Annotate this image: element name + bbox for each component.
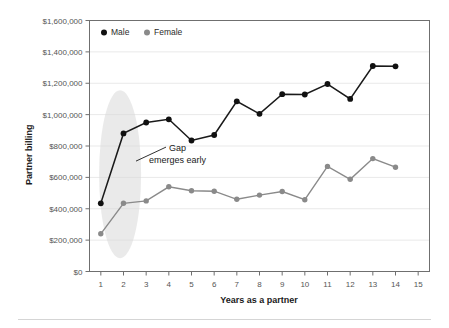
data-point-female-year-1 [98,231,103,236]
data-point-female-year-4 [166,184,171,189]
y-tick-label: $0 [74,268,83,277]
y-axis-title: Partner billing [24,124,34,185]
legend-marker-male [101,30,107,36]
data-point-male-year-5 [189,138,195,144]
y-tick-label: $800,000 [49,142,83,151]
data-point-male-year-4 [166,116,172,122]
x-tick-label: 2 [121,280,126,289]
x-tick-label: 8 [257,280,262,289]
data-point-male-year-1 [98,200,104,206]
data-point-female-year-7 [234,197,239,202]
partner-billing-line-chart: $0$200,000$400,000$600,000$800,000$1,000… [0,0,449,328]
legend-marker-female [144,30,150,36]
annotation-text-line2: emerges early [149,155,207,165]
data-point-male-year-7 [234,98,240,104]
x-tick-label: 11 [323,280,332,289]
annotation-text-line1: Gap [169,143,186,153]
data-point-male-year-6 [211,132,217,138]
y-tick-label: $200,000 [49,236,83,245]
y-tick-label: $1,400,000 [42,48,83,57]
data-point-male-year-2 [121,131,127,137]
data-point-female-year-14 [393,165,398,170]
y-tick-label: $1,000,000 [42,111,83,120]
chart-figure: $0$200,000$400,000$600,000$800,000$1,000… [0,0,449,328]
data-point-male-year-10 [302,92,308,98]
x-tick-label: 10 [300,280,309,289]
x-axis-title: Years as a partner [220,295,298,305]
x-tick-label: 7 [235,280,240,289]
data-point-male-year-12 [347,96,353,102]
data-point-female-year-2 [121,201,126,206]
highlight-ellipse-layer [99,90,141,258]
x-tick-label: 15 [414,280,423,289]
x-tick-label: 12 [346,280,355,289]
x-tick-label: 6 [212,280,217,289]
x-tick-label: 3 [144,280,149,289]
data-point-male-year-3 [143,120,149,126]
x-tick-label: 4 [167,280,172,289]
data-point-male-year-14 [393,63,399,69]
y-tick-label: $1,600,000 [42,17,83,26]
data-point-female-year-8 [257,192,262,197]
x-tick-label: 13 [368,280,377,289]
y-tick-label: $1,200,000 [42,79,83,88]
data-point-male-year-8 [257,111,263,117]
data-point-male-year-13 [370,63,376,69]
data-point-female-year-5 [189,188,194,193]
y-tick-label: $400,000 [49,205,83,214]
x-tick-label: 1 [99,280,104,289]
data-point-female-year-11 [325,164,330,169]
data-point-female-year-9 [280,189,285,194]
x-tick-label: 5 [189,280,194,289]
legend-label-male: Male [111,27,130,37]
y-axis-ticks: $0$200,000$400,000$600,000$800,000$1,000… [42,17,89,277]
data-point-female-year-10 [302,197,307,202]
data-point-female-year-6 [212,189,217,194]
early-years-highlight-ellipse [99,90,141,258]
data-point-female-year-13 [370,156,375,161]
data-point-female-year-3 [144,198,149,203]
x-tick-label: 9 [280,280,285,289]
data-point-male-year-9 [279,91,285,97]
legend-label-female: Female [154,27,183,37]
data-point-female-year-12 [348,177,353,182]
y-tick-label: $600,000 [49,173,83,182]
x-tick-label: 14 [391,280,400,289]
data-point-male-year-11 [325,81,331,87]
